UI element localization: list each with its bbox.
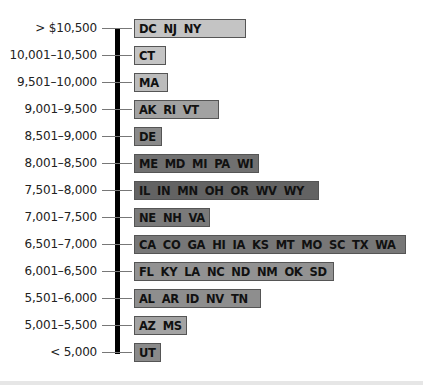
state-abbreviation: FL [139, 265, 154, 279]
range-row: 7,001–7,500NENHVA [0, 208, 423, 227]
range-label: 6,001–6,500 [24, 262, 97, 281]
axis-tick [102, 190, 132, 191]
range-label: 7,501–8,000 [24, 181, 97, 200]
state-abbreviation: AK [139, 103, 156, 117]
axis-tick [102, 82, 132, 83]
axis-tick [102, 352, 132, 353]
state-abbreviation: IL [139, 184, 150, 198]
state-group-box: DCNJNY [134, 19, 246, 38]
state-abbreviation: TX [352, 238, 368, 252]
state-group-box: FLKYLANCNDNMOKSD [134, 262, 334, 281]
axis-tick [102, 55, 132, 56]
state-group-box: MA [134, 73, 168, 92]
axis-tick [102, 298, 132, 299]
state-abbreviation: MD [165, 157, 185, 171]
state-abbreviation: GA [187, 238, 205, 252]
state-group-box: ALARIDNVTN [134, 289, 261, 308]
range-row: 9,001–9,500AKRIVT [0, 100, 423, 119]
range-row: 5,501–6,000ALARIDNVTN [0, 289, 423, 308]
state-abbreviation: AZ [139, 319, 156, 333]
state-abbreviation: MT [276, 238, 295, 252]
state-abbreviation: ND [231, 265, 250, 279]
state-abbreviation: NV [206, 292, 224, 306]
state-abbreviation: MS [163, 319, 182, 333]
state-abbreviation: KY [161, 265, 178, 279]
state-abbreviation: NY [184, 22, 201, 36]
state-abbreviation: CT [139, 49, 155, 63]
state-abbreviation: SC [329, 238, 345, 252]
state-abbreviation: NJ [163, 22, 176, 36]
axis-tick [102, 163, 132, 164]
state-abbreviation: LA [184, 265, 200, 279]
state-group-box: DE [134, 127, 162, 146]
range-label: 9,001–9,500 [24, 100, 97, 119]
state-abbreviation: MN [177, 184, 197, 198]
state-abbreviation: IN [157, 184, 170, 198]
range-label: 7,001–7,500 [24, 208, 97, 227]
state-abbreviation: NC [207, 265, 224, 279]
footer-band [0, 381, 423, 385]
axis-tick [102, 109, 132, 110]
state-abbreviation: AR [162, 292, 179, 306]
state-group-box: MEMDMIPAWI [134, 154, 259, 173]
axis-tick [102, 136, 132, 137]
state-group-box: UT [134, 343, 161, 362]
range-row: < 5,000UT [0, 343, 423, 362]
state-abbreviation: AL [139, 292, 155, 306]
state-abbreviation: IA [232, 238, 245, 252]
range-row: 8,501–9,000DE [0, 127, 423, 146]
state-abbreviation: ME [139, 157, 158, 171]
axis-tick [102, 28, 132, 29]
range-label: 9,501–10,000 [17, 73, 97, 92]
state-abbreviation: HI [212, 238, 225, 252]
state-abbreviation: KS [252, 238, 269, 252]
state-group-box: NENHVA [134, 208, 210, 227]
state-abbreviation: MO [301, 238, 322, 252]
range-label: 5,001–5,500 [24, 316, 97, 335]
state-abbreviation: TN [231, 292, 248, 306]
range-label: 6,501–7,000 [24, 235, 97, 254]
state-abbreviation: MA [139, 76, 159, 90]
state-abbreviation: DC [139, 22, 156, 36]
state-group-box: CT [134, 46, 166, 65]
state-abbreviation: VA [189, 211, 205, 225]
state-abbreviation: NH [163, 211, 182, 225]
state-abbreviation: NE [139, 211, 156, 225]
state-abbreviation: SD [309, 265, 326, 279]
range-row: > $10,500DCNJNY [0, 19, 423, 38]
range-label: 8,501–9,000 [24, 127, 97, 146]
state-abbreviation: UT [139, 346, 156, 360]
state-abbreviation: DE [139, 130, 156, 144]
spending-range-chart: > $10,500DCNJNY10,001–10,500CT9,501–10,0… [0, 0, 423, 381]
state-abbreviation: RI [163, 103, 176, 117]
range-label: > $10,500 [35, 19, 97, 38]
range-row: 9,501–10,000MA [0, 73, 423, 92]
range-row: 5,001–5,500AZMS [0, 316, 423, 335]
axis-tick [102, 271, 132, 272]
state-abbreviation: PA [214, 157, 230, 171]
axis-tick [102, 244, 132, 245]
state-abbreviation: ID [186, 292, 199, 306]
state-abbreviation: WY [284, 184, 304, 198]
range-row: 7,501–8,000ILINMNOHORWVWY [0, 181, 423, 200]
state-abbreviation: MI [192, 157, 207, 171]
state-abbreviation: VT [183, 103, 199, 117]
range-row: 10,001–10,500CT [0, 46, 423, 65]
range-label: < 5,000 [50, 343, 97, 362]
state-abbreviation: NM [257, 265, 277, 279]
state-abbreviation: CA [139, 238, 156, 252]
range-row: 6,001–6,500FLKYLANCNDNMOKSD [0, 262, 423, 281]
axis-tick [102, 217, 132, 218]
range-label: 5,501–6,000 [24, 289, 97, 308]
state-group-box: CACOGAHIIAKSMTMOSCTXWA [134, 235, 406, 254]
state-group-box: AZMS [134, 316, 187, 335]
state-group-box: ILINMNOHORWVWY [134, 181, 319, 200]
range-row: 8,001–8,500MEMDMIPAWI [0, 154, 423, 173]
state-abbreviation: OH [205, 184, 224, 198]
state-abbreviation: CO [163, 238, 181, 252]
range-label: 10,001–10,500 [10, 46, 97, 65]
range-label: 8,001–8,500 [24, 154, 97, 173]
state-abbreviation: WA [375, 238, 395, 252]
state-abbreviation: WI [237, 157, 253, 171]
state-abbreviation: OR [231, 184, 249, 198]
